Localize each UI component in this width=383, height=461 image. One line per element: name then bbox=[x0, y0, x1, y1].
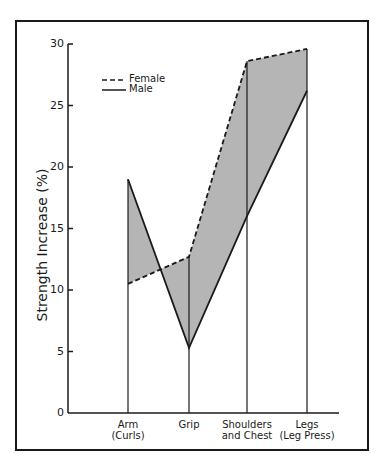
y-tick-25: 25 bbox=[40, 99, 64, 112]
y-tick-20: 20 bbox=[40, 160, 64, 173]
y-tick-15: 15 bbox=[40, 222, 64, 235]
legend bbox=[102, 80, 126, 90]
x-category-legs-line1: Legs bbox=[267, 419, 347, 430]
y-tick-30: 30 bbox=[40, 37, 64, 50]
y-tick-5: 5 bbox=[40, 345, 64, 358]
x-category-legs-line2: (Leg Press) bbox=[267, 430, 347, 441]
y-tick-0: 0 bbox=[40, 406, 64, 419]
x-category-arm-line2: (Curls) bbox=[88, 430, 168, 441]
legend-male-label: Male bbox=[129, 83, 153, 94]
y-axis-label: Strength Increase (%) bbox=[34, 169, 50, 322]
x-category-legs: Legs (Leg Press) bbox=[267, 419, 347, 441]
y-tick-10: 10 bbox=[40, 283, 64, 296]
shaded-difference-area bbox=[128, 49, 307, 348]
shaded-area bbox=[128, 49, 307, 348]
